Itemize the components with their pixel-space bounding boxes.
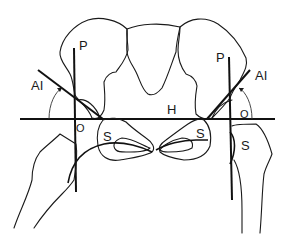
label-left-p: P (79, 38, 88, 53)
right-femur-inner-outline (234, 160, 242, 233)
left-acetabular-index-line (38, 70, 103, 119)
left-femoral-curve (68, 143, 152, 183)
sacrum-outline (127, 24, 180, 95)
label-left-s: S (103, 129, 112, 144)
left-ilium-outline (60, 18, 128, 118)
hip-angle-diagram: P P AI AI H S S S O O (0, 0, 290, 239)
left-angle-arc (49, 88, 62, 119)
right-ilium-outline (178, 19, 247, 119)
right-femur-outline (232, 124, 272, 233)
label-right-o: O (240, 108, 249, 120)
right-perpendicular-line-p (229, 57, 232, 200)
label-left-ai: AI (31, 78, 43, 93)
label-right-p: P (216, 50, 225, 65)
label-left-o: O (76, 122, 85, 134)
left-femur-outline (14, 134, 77, 228)
label-right-s-lower: S (241, 138, 250, 153)
label-h: H (167, 102, 176, 117)
label-right-ai: AI (255, 68, 267, 83)
label-right-s-upper: S (196, 126, 205, 141)
